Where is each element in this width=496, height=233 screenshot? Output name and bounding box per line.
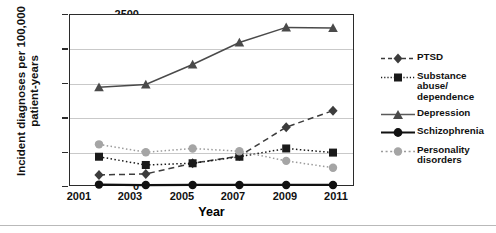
data-point xyxy=(329,181,337,189)
plot-area xyxy=(69,14,354,186)
data-point xyxy=(141,169,150,179)
y-tick-mark xyxy=(62,48,68,49)
data-point xyxy=(282,122,291,132)
legend-label-schizophrenia: Schizophrenia xyxy=(415,126,484,137)
legend-item-ptsd[interactable]: PTSD xyxy=(381,52,496,65)
data-point xyxy=(328,106,337,116)
data-point xyxy=(235,181,243,189)
data-point xyxy=(94,170,103,180)
legend-label-personality-disorders: Personality disorders xyxy=(415,145,496,166)
depression-triangle-icon xyxy=(381,108,415,121)
series-ptsd xyxy=(94,106,337,180)
legend-item-substance-abuse[interactable]: Substance abuse/dependence xyxy=(381,71,496,103)
data-point xyxy=(282,144,290,152)
y-axis-title: Incident diagnoses per 100,000 patient-y… xyxy=(15,0,41,191)
legend-item-personality-disorders[interactable]: Personality disorders xyxy=(381,145,496,166)
data-point xyxy=(95,140,103,148)
legend-item-schizophrenia[interactable]: Schizophrenia xyxy=(381,126,496,139)
data-point xyxy=(188,144,196,152)
series-depression xyxy=(94,23,338,92)
y-tick-mark xyxy=(62,14,68,15)
data-point xyxy=(142,148,150,156)
data-point xyxy=(188,60,198,69)
data-point xyxy=(95,180,103,188)
y-tick-mark xyxy=(62,117,68,118)
personality-circle-icon xyxy=(381,145,415,158)
schizophrenia-circle-icon xyxy=(381,126,415,139)
data-point xyxy=(142,181,150,189)
ptsd-diamond-icon xyxy=(381,52,415,65)
chart-figure: Incident diagnoses per 100,000 patient-y… xyxy=(0,0,496,233)
x-tick-label-2011: 2011 xyxy=(311,190,361,202)
legend-label-ptsd: PTSD xyxy=(415,52,443,63)
footer-divider xyxy=(0,225,496,226)
x-tick-label-2007: 2007 xyxy=(208,190,258,202)
data-point xyxy=(282,157,290,165)
x-tick-label-2001: 2001 xyxy=(54,190,104,202)
data-point xyxy=(329,164,337,172)
data-point xyxy=(235,147,243,155)
x-axis-title: Year xyxy=(69,205,354,219)
y-tick-mark xyxy=(62,152,68,153)
data-point xyxy=(142,161,150,169)
data-point xyxy=(189,159,197,167)
data-point xyxy=(188,181,196,189)
x-tick-label-2005: 2005 xyxy=(157,190,207,202)
x-tick-label-2009: 2009 xyxy=(260,190,310,202)
data-point xyxy=(95,153,103,161)
substance-square-icon xyxy=(381,71,415,84)
data-point xyxy=(282,181,290,189)
series-substance-abuse-dependence xyxy=(95,144,337,169)
series-personality-disorders xyxy=(95,140,337,172)
y-tick-mark xyxy=(62,83,68,84)
data-point xyxy=(329,149,337,157)
y-tick-mark xyxy=(62,186,68,187)
legend-label-depression: Depression xyxy=(415,108,470,119)
x-tick-label-2003: 2003 xyxy=(105,190,155,202)
chart-legend: PTSD Substance abuse/dependence Depressi… xyxy=(381,52,496,171)
legend-item-depression[interactable]: Depression xyxy=(381,108,496,121)
legend-label-substance-abuse: Substance abuse/dependence xyxy=(415,71,496,103)
series-lines xyxy=(70,15,355,187)
